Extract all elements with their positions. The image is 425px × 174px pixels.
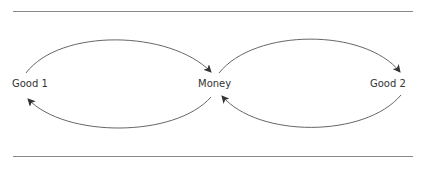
arrow-money-to-good2	[219, 39, 400, 73]
bottom-divider	[13, 156, 413, 157]
arrow-good1-to-money	[26, 40, 211, 73]
arrow-good2-to-money	[222, 95, 401, 127]
node-good-2: Good 2	[370, 78, 406, 90]
node-good-1: Good 1	[12, 78, 48, 90]
arrow-money-to-good1	[28, 97, 211, 128]
node-money: Money	[198, 78, 231, 90]
